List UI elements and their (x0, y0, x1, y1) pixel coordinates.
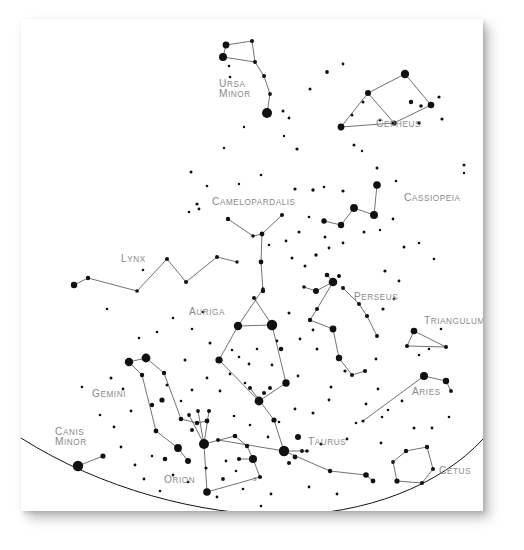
constellation-line-cetus (393, 447, 433, 483)
star-cepheus (428, 102, 435, 109)
field-star (325, 70, 329, 74)
star-designation-letter: S (253, 475, 257, 483)
field-star (271, 364, 274, 367)
star-auriga (282, 379, 289, 386)
star-perseus (313, 288, 319, 294)
star-canis-minor (100, 453, 105, 458)
constellation-line-aries (363, 376, 451, 421)
star-taurus (271, 417, 276, 422)
field-star (304, 265, 307, 268)
constellation-label-ursa-minor: URSAMINOR (219, 78, 251, 99)
field-star (392, 218, 395, 221)
field-star (440, 117, 443, 120)
constellation-line-orion (198, 411, 204, 444)
constellation-line-taurus (218, 440, 284, 451)
field-star (99, 414, 102, 417)
star-chart-page: S URSAMINORCEPHEUSCASSIOPEIACAMELOPARDAL… (0, 0, 524, 550)
star-cetus (431, 467, 435, 471)
star-orion (221, 477, 225, 481)
field-star (342, 63, 345, 66)
star-perseus (337, 274, 341, 278)
star-chart-card: S URSAMINORCEPHEUSCASSIOPEIACAMELOPARDAL… (21, 19, 483, 511)
star-auriga (279, 347, 284, 352)
star-taurus (279, 446, 289, 456)
star-cassiopeia (338, 222, 344, 228)
field-stars-layer (81, 63, 466, 511)
field-star (418, 242, 421, 245)
star-gemini (154, 429, 159, 434)
field-star (308, 486, 311, 489)
star-lynx (215, 255, 219, 259)
field-star (216, 496, 219, 499)
field-star (244, 382, 247, 385)
constellation-labels-layer: URSAMINORCEPHEUSCASSIOPEIACAMELOPARDALIS… (55, 78, 483, 485)
field-star (180, 400, 183, 403)
field-star (376, 167, 379, 170)
star-cetus (425, 445, 429, 449)
field-star (191, 328, 194, 331)
field-star (231, 349, 234, 352)
field-star (159, 490, 162, 493)
field-star (355, 422, 358, 425)
field-star (375, 358, 378, 361)
star-taurus (216, 438, 220, 442)
star-lynx (165, 257, 169, 261)
field-star (260, 174, 263, 177)
celestial-equator-line (21, 438, 483, 511)
constellation-line-orion (204, 444, 260, 492)
star-auriga (215, 356, 222, 363)
field-star (311, 188, 314, 191)
constellation-line-taurus (250, 388, 284, 451)
field-star (308, 216, 311, 219)
star-taurus (371, 479, 376, 484)
star-taurus (328, 469, 332, 473)
star-taurus (363, 472, 369, 478)
field-star (172, 317, 175, 320)
star-perseus (365, 314, 369, 318)
field-star (225, 460, 228, 463)
field-star (288, 312, 291, 315)
field-star (248, 363, 251, 366)
field-star (238, 183, 240, 185)
star-perseus (302, 285, 306, 289)
constellation-label-orion: ORION (164, 474, 195, 485)
star-ursa-minor (219, 53, 227, 61)
field-star (297, 375, 300, 378)
field-star (361, 150, 363, 152)
field-star (260, 505, 263, 508)
star-aries (420, 372, 428, 380)
constellation-line-lynx (74, 257, 237, 291)
field-star (113, 426, 116, 429)
star-perseus (357, 302, 361, 306)
field-star (270, 493, 273, 496)
field-star (143, 478, 146, 481)
star-perseus (350, 373, 354, 377)
constellation-line-gemini (129, 358, 207, 423)
star-aries (443, 378, 449, 384)
field-star (120, 446, 123, 449)
constellation-label-cassiopeia: CASSIOPEIA (404, 192, 461, 203)
field-star (387, 409, 390, 412)
field-star (282, 110, 285, 113)
constellation-line-cassiopeia (324, 185, 377, 225)
star-orion (190, 428, 194, 432)
field-star (336, 493, 339, 496)
field-star (130, 410, 133, 413)
star-auriga (261, 287, 265, 291)
star-taurus (293, 455, 298, 460)
field-star (288, 117, 291, 120)
constellation-label-cepheus: CEPHEUS (376, 118, 421, 129)
star-taurus (287, 461, 291, 465)
field-star (190, 171, 193, 174)
star-taurus (248, 386, 252, 390)
star-ursa-minor (268, 92, 272, 96)
field-star (229, 76, 232, 79)
field-star (314, 253, 317, 256)
star-auriga (255, 397, 264, 406)
field-star (110, 377, 113, 380)
star-camelopardalis (259, 260, 264, 265)
star-perseus (363, 369, 367, 373)
star-perseus (336, 355, 342, 361)
star-perseus (308, 318, 312, 322)
constellation-line-orion (204, 411, 209, 444)
